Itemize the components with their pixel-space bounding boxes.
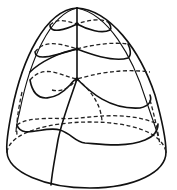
ring-2-front xyxy=(35,44,130,59)
dome-wireframe-diagram xyxy=(0,0,177,190)
ring-3-front xyxy=(30,79,151,108)
ring-4-front xyxy=(17,124,158,145)
node-2 xyxy=(75,47,79,51)
base-back xyxy=(7,122,166,152)
meridian-back-right xyxy=(77,79,102,122)
ring-3-back xyxy=(30,71,150,80)
ring-1-front xyxy=(50,22,111,32)
node-1 xyxy=(75,22,79,26)
base-front xyxy=(7,152,166,188)
node-3 xyxy=(75,77,79,81)
ring-4-back xyxy=(17,116,158,125)
